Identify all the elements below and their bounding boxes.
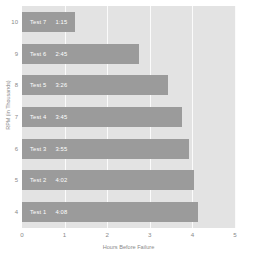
x-tick-label: 2 [97,231,117,238]
bar-label: Test 62:45 [30,44,67,64]
y-tick-label: 10 [0,18,18,26]
bar-label-name: Test 7 [30,19,46,25]
bar: Test 14:08 [22,202,198,222]
bar: Test 33:55 [22,139,189,159]
bar-label-name: Test 2 [30,177,46,183]
bar-label: Test 53:26 [30,75,67,95]
y-tick-label: 6 [0,145,18,153]
bar: Test 53:26 [22,75,168,95]
x-tick-label: 0 [12,231,32,238]
x-tick-label: 5 [225,231,245,238]
bar: Test 24:02 [22,170,194,190]
y-tick-label: 8 [0,81,18,89]
bar-label-name: Test 3 [30,146,46,152]
plot-area: Test 71:15Test 62:45Test 53:26Test 43:45… [22,6,235,228]
chart-title [0,0,257,3]
bar-label: Test 43:45 [30,107,67,127]
y-tick-label: 7 [0,113,18,121]
bar: Test 71:15 [22,12,75,32]
bar-label-time: 4:08 [55,209,67,215]
x-tick-label: 3 [140,231,160,238]
y-tick-label: 9 [0,50,18,58]
bar: Test 43:45 [22,107,182,127]
bar-label-time: 3:45 [55,114,67,120]
bar: Test 62:45 [22,44,139,64]
bar-label: Test 71:15 [30,12,67,32]
x-axis-label: Hours Before Failure [22,244,235,250]
bar-chart: RPM (in Thousands) Test 71:15Test 62:45T… [0,0,257,260]
bar-label-time: 1:15 [55,19,67,25]
bar-label-time: 3:26 [55,82,67,88]
gridline-x-5 [235,6,236,228]
bar-label-time: 4:02 [55,177,67,183]
bar-label-name: Test 5 [30,82,46,88]
bar-label-time: 2:45 [55,51,67,57]
x-tick-label: 4 [182,231,202,238]
x-tick-label: 1 [55,231,75,238]
bar-label-time: 3:55 [55,146,67,152]
y-tick-label: 4 [0,208,18,216]
bar-label: Test 14:08 [30,202,67,222]
bar-label-name: Test 4 [30,114,46,120]
y-tick-label: 5 [0,176,18,184]
bar-label-name: Test 6 [30,51,46,57]
bar-label-name: Test 1 [30,209,46,215]
bar-label: Test 33:55 [30,139,67,159]
bar-label: Test 24:02 [30,170,67,190]
gridline-x-4 [192,6,193,228]
